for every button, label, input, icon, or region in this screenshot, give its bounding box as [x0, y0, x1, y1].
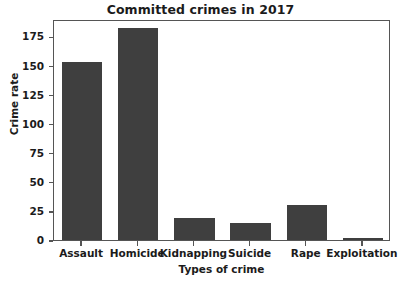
bar-exploitation — [343, 238, 383, 240]
bars-container — [54, 21, 389, 240]
bar-homicide — [118, 28, 158, 240]
x-tick-label-rape: Rape — [291, 247, 321, 259]
x-tick-mark — [305, 241, 306, 246]
y-tick-label: 0 — [37, 234, 44, 246]
y-tick-mark — [49, 37, 54, 38]
x-tick-label-exploitation: Exploitation — [326, 247, 397, 259]
x-tick-mark — [80, 241, 81, 246]
x-tick-mark — [137, 241, 138, 246]
y-tick-mark — [49, 124, 54, 125]
y-tick-mark — [49, 211, 54, 212]
x-tick-label-assault: Assault — [59, 247, 103, 259]
bar-chart-figure: Committed crimes in 2017 Crime rate 0255… — [0, 0, 401, 283]
y-tick-label: 175 — [22, 30, 44, 42]
x-tick-label-kidnapping: Kidnapping — [160, 247, 227, 259]
x-tick-label-suicide: Suicide — [228, 247, 271, 259]
x-tick-label-homicide: Homicide — [110, 247, 165, 259]
plot-area — [53, 20, 390, 241]
chart-title: Committed crimes in 2017 — [0, 2, 401, 17]
y-tick-mark — [49, 66, 54, 67]
bar-suicide — [230, 223, 270, 240]
y-tick-label: 25 — [29, 205, 44, 217]
x-tick-mark — [193, 241, 194, 246]
bar-assault — [62, 62, 102, 240]
y-tick-mark — [49, 153, 54, 154]
x-tick-mark — [361, 241, 362, 246]
y-axis-label: Crime rate — [8, 44, 20, 164]
x-axis-label: Types of crime — [53, 263, 390, 275]
y-tick-mark — [49, 240, 54, 241]
y-tick-mark — [49, 182, 54, 183]
y-tick-label: 50 — [29, 176, 44, 188]
x-tick-mark — [249, 241, 250, 246]
y-tick-label: 75 — [29, 147, 44, 159]
y-tick-label: 150 — [22, 60, 44, 72]
y-tick-label: 125 — [22, 89, 44, 101]
bar-rape — [287, 205, 327, 240]
bar-kidnapping — [174, 218, 214, 240]
y-tick-mark — [49, 95, 54, 96]
y-tick-label: 100 — [22, 118, 44, 130]
